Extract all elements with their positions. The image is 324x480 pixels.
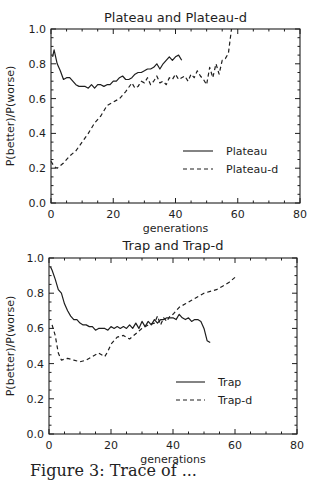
figure-caption: Figure 3: Trace of ...	[30, 462, 197, 480]
x-tick-label: 80	[290, 439, 304, 452]
plot-frame	[51, 29, 300, 203]
y-tick-label: 0.8	[27, 287, 45, 300]
y-tick-label: 0.2	[29, 162, 47, 175]
y-tick-label: 0.6	[27, 322, 45, 335]
x-tick-label: 20	[106, 208, 120, 221]
plot-trap: 0204060800.00.20.40.60.81.0Trap and Trap…	[4, 238, 304, 466]
x-tick-label: 20	[104, 439, 118, 452]
x-tick-label: 60	[231, 208, 245, 221]
x-tick-label: 80	[293, 208, 307, 221]
x-tick-label: 0	[46, 439, 53, 452]
y-tick-label: 1.0	[27, 252, 45, 265]
x-tick-label: 0	[48, 208, 55, 221]
plot-plateau: 0204060800.00.20.40.60.81.0Plateau and P…	[4, 10, 307, 235]
y-tick-label: 0.2	[27, 393, 45, 406]
y-tick-label: 1.0	[29, 23, 47, 36]
legend-label: Plateau	[226, 145, 267, 158]
chart-title: Plateau and Plateau-d	[104, 10, 247, 25]
legend-label: Plateau-d	[226, 163, 278, 176]
y-tick-label: 0.8	[29, 58, 47, 71]
y-tick-label: 0.4	[29, 127, 47, 140]
x-tick-label: 40	[169, 208, 183, 221]
series-trap	[51, 267, 211, 343]
plot-frame	[49, 258, 297, 434]
y-axis-label: P(better)/P(worse)	[4, 296, 17, 397]
series-plateau	[53, 50, 182, 88]
series-plateau-d	[51, 29, 232, 168]
y-tick-label: 0.0	[27, 428, 45, 441]
chart-title: Trap and Trap-d	[122, 238, 224, 253]
series-trap-d	[52, 277, 235, 361]
legend-label: Trap-d	[217, 394, 252, 407]
x-tick-label: 40	[166, 439, 180, 452]
y-axis-label: P(better)/P(worse)	[4, 66, 17, 167]
y-tick-label: 0.6	[29, 93, 47, 106]
x-axis-label: generations	[143, 222, 209, 235]
y-tick-label: 0.0	[29, 197, 47, 210]
x-tick-label: 60	[228, 439, 242, 452]
legend-label: Trap	[217, 376, 241, 389]
y-tick-label: 0.4	[27, 358, 45, 371]
